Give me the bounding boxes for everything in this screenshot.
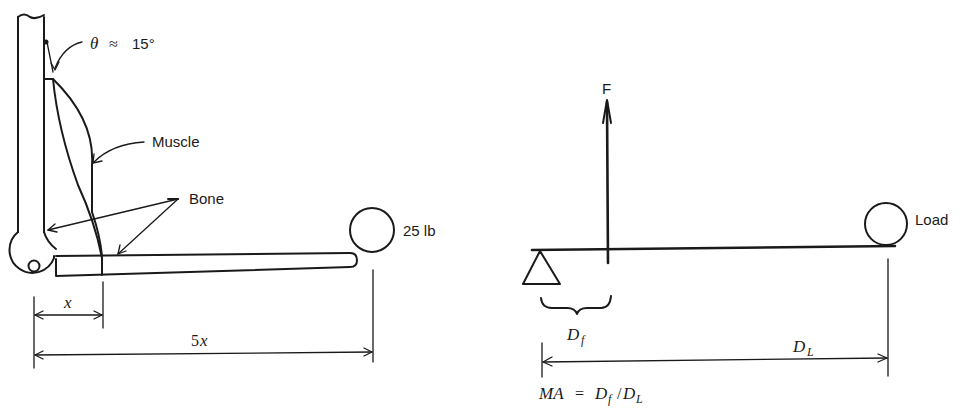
dl-sub: L — [806, 345, 814, 359]
formula-slash: / — [617, 385, 622, 402]
load-weight-label: 25 lb — [403, 222, 436, 239]
dim-5x-coef: 5 — [191, 332, 199, 349]
formula-num-sub: f — [608, 392, 613, 406]
right-panel-lever-model: F Load D f D L MA = D f / — [523, 80, 948, 406]
load-label: Load — [915, 211, 948, 228]
force-label: F — [602, 80, 611, 97]
weight-ball-icon — [350, 208, 394, 252]
angle-annotation: θ ≈ 15° — [51, 34, 155, 70]
muscle-annotation: Muscle — [93, 133, 200, 163]
load-distance-dimension: D L — [542, 259, 888, 377]
dimension-5x: 5 x — [35, 270, 373, 362]
angle-theta-label: θ — [90, 34, 98, 53]
dl-var: D — [792, 337, 806, 356]
pivot-pin-icon — [29, 261, 40, 272]
angle-approx-sign: ≈ — [109, 35, 118, 52]
df-sub: f — [581, 333, 586, 347]
dim-x-label: x — [63, 293, 72, 312]
lever-mechanics-figure: θ ≈ 15° Muscle Bone 25 lb — [0, 0, 962, 413]
muscle-label: Muscle — [152, 133, 200, 150]
tendon-origin-dot — [44, 40, 49, 45]
formula-num-var: D — [594, 384, 608, 403]
formula-den-var: D — [622, 384, 636, 403]
bone-annotation: Bone — [48, 190, 224, 254]
formula-lhs: MA — [538, 384, 564, 403]
left-panel-forearm: θ ≈ 15° Muscle Bone 25 lb — [9, 15, 435, 369]
lever-beam — [532, 246, 895, 250]
diagram-canvas: θ ≈ 15° Muscle Bone 25 lb — [0, 0, 962, 413]
load-weight-25lb: 25 lb — [350, 208, 436, 252]
mechanical-advantage-formula: MA = D f / D L — [538, 384, 643, 406]
bone-label: Bone — [189, 190, 224, 207]
fulcrum-triangle-icon — [523, 251, 560, 284]
formula-den-sub: L — [635, 392, 643, 406]
fulcrum-distance-brace: D f — [541, 296, 611, 347]
angle-value-label: 15° — [132, 35, 155, 52]
load-ball-icon — [865, 203, 907, 245]
df-var: D — [566, 325, 580, 344]
elbow-joint — [9, 232, 56, 273]
lever-load: Load — [865, 203, 948, 245]
upper-arm-bone — [18, 15, 44, 233]
formula-equals: = — [575, 385, 584, 402]
dim-5x-var: x — [199, 331, 208, 350]
force-arrow: F — [602, 80, 611, 263]
